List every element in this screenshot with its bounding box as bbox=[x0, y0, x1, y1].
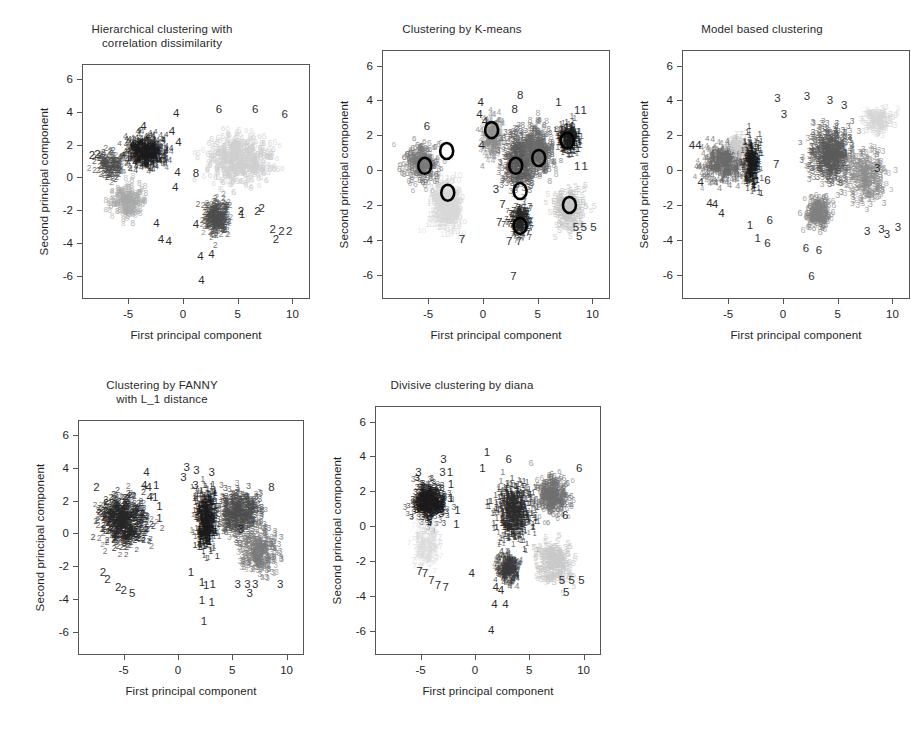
svg-text:4: 4 bbox=[480, 162, 485, 171]
x-tick-label: 10 bbox=[577, 664, 590, 676]
svg-text:1: 1 bbox=[495, 504, 500, 514]
svg-text:8: 8 bbox=[536, 126, 541, 136]
svg-text:5: 5 bbox=[129, 587, 135, 599]
y-tick bbox=[377, 135, 382, 136]
svg-text:3: 3 bbox=[877, 145, 882, 155]
x-tick bbox=[124, 655, 125, 660]
svg-text:4: 4 bbox=[135, 156, 140, 165]
y-tick bbox=[677, 275, 682, 276]
svg-text:3: 3 bbox=[872, 115, 876, 124]
svg-text:1: 1 bbox=[567, 150, 572, 160]
svg-text:2: 2 bbox=[93, 481, 99, 493]
svg-text:3: 3 bbox=[807, 160, 812, 169]
svg-text:3: 3 bbox=[208, 466, 214, 478]
svg-text:4: 4 bbox=[152, 148, 157, 158]
svg-text:3: 3 bbox=[895, 221, 901, 233]
y-tick bbox=[377, 240, 382, 241]
svg-text:1: 1 bbox=[199, 594, 205, 606]
svg-text:3: 3 bbox=[425, 505, 429, 514]
svg-text:6: 6 bbox=[505, 453, 511, 465]
x-tick bbox=[428, 299, 429, 304]
y-tick bbox=[677, 100, 682, 101]
svg-text:3: 3 bbox=[229, 492, 234, 502]
svg-text:3: 3 bbox=[825, 160, 830, 170]
x-tick bbox=[538, 299, 539, 304]
svg-text:3: 3 bbox=[235, 578, 241, 590]
svg-text:7: 7 bbox=[415, 535, 420, 545]
svg-text:3: 3 bbox=[248, 517, 253, 527]
svg-text:4: 4 bbox=[716, 174, 721, 184]
svg-text:3: 3 bbox=[877, 127, 881, 136]
svg-text:8: 8 bbox=[129, 194, 134, 203]
svg-text:1: 1 bbox=[493, 491, 498, 500]
x-tick-label: -5 bbox=[423, 308, 433, 320]
svg-text:6: 6 bbox=[402, 170, 407, 179]
svg-text:2: 2 bbox=[149, 541, 154, 551]
svg-text:4: 4 bbox=[172, 181, 179, 193]
svg-text:5: 5 bbox=[563, 586, 569, 598]
svg-text:3: 3 bbox=[892, 120, 897, 130]
panel-title: Clustering by FANNY with L_1 distance bbox=[16, 378, 308, 406]
svg-text:1: 1 bbox=[553, 125, 557, 134]
svg-text:4: 4 bbox=[502, 598, 509, 610]
svg-text:1: 1 bbox=[479, 462, 485, 474]
svg-text:3: 3 bbox=[274, 567, 279, 577]
svg-text:2: 2 bbox=[223, 224, 228, 234]
x-tick bbox=[783, 299, 784, 304]
svg-text:1: 1 bbox=[518, 530, 523, 540]
svg-text:2: 2 bbox=[125, 142, 130, 152]
svg-text:3: 3 bbox=[804, 90, 810, 102]
y-tick bbox=[77, 112, 82, 113]
svg-text:4: 4 bbox=[153, 217, 160, 229]
svg-text:5: 5 bbox=[578, 574, 584, 586]
svg-text:1: 1 bbox=[203, 494, 208, 504]
svg-text:7: 7 bbox=[459, 233, 465, 245]
x-tick-label: 0 bbox=[780, 308, 786, 320]
svg-text:1: 1 bbox=[555, 96, 561, 108]
panel-1: Clustering by K-means-505106420-2-4-6666… bbox=[316, 22, 608, 367]
y-tick-label: 4 bbox=[360, 450, 366, 462]
svg-text:3: 3 bbox=[244, 496, 249, 505]
svg-text:7: 7 bbox=[428, 574, 434, 586]
svg-text:4: 4 bbox=[157, 152, 162, 162]
svg-text:5: 5 bbox=[583, 180, 588, 190]
svg-text:3: 3 bbox=[254, 505, 259, 515]
svg-text:4: 4 bbox=[713, 164, 718, 174]
y-tick bbox=[77, 177, 82, 178]
y-tick-label: 0 bbox=[367, 164, 373, 176]
svg-text:6: 6 bbox=[221, 177, 226, 187]
svg-text:3: 3 bbox=[842, 171, 847, 181]
svg-text:7: 7 bbox=[430, 538, 434, 547]
svg-text:4: 4 bbox=[486, 142, 491, 152]
svg-text:3: 3 bbox=[841, 99, 847, 111]
svg-text:4: 4 bbox=[491, 598, 498, 610]
x-tick-label: 10 bbox=[586, 308, 599, 320]
y-axis-label: Second principal component bbox=[638, 50, 650, 299]
x-tick bbox=[183, 299, 184, 304]
svg-text:3: 3 bbox=[237, 494, 242, 504]
svg-text:1: 1 bbox=[448, 492, 454, 504]
x-tick-label: 10 bbox=[280, 664, 293, 676]
svg-text:3: 3 bbox=[439, 466, 445, 478]
svg-text:3: 3 bbox=[827, 94, 833, 106]
plot-area: 3333333333333333333333333333333333333333… bbox=[375, 406, 601, 655]
svg-text:8: 8 bbox=[550, 143, 555, 152]
svg-text:1: 1 bbox=[754, 170, 759, 180]
svg-text:2: 2 bbox=[117, 157, 122, 167]
svg-text:6: 6 bbox=[424, 120, 430, 132]
svg-text:3: 3 bbox=[887, 169, 892, 178]
svg-text:10: 10 bbox=[453, 170, 463, 180]
svg-text:1: 1 bbox=[448, 478, 454, 490]
svg-text:3: 3 bbox=[852, 151, 856, 160]
svg-text:6: 6 bbox=[571, 495, 576, 505]
svg-text:8: 8 bbox=[107, 205, 112, 215]
svg-text:3: 3 bbox=[843, 188, 848, 198]
svg-text:3: 3 bbox=[253, 554, 258, 564]
svg-text:1: 1 bbox=[739, 157, 744, 167]
svg-text:1: 1 bbox=[206, 537, 211, 547]
y-tick-label: -2 bbox=[63, 204, 73, 216]
svg-text:3: 3 bbox=[828, 136, 833, 145]
svg-text:3: 3 bbox=[440, 453, 446, 465]
svg-text:1: 1 bbox=[750, 181, 755, 191]
svg-text:6: 6 bbox=[277, 141, 281, 150]
